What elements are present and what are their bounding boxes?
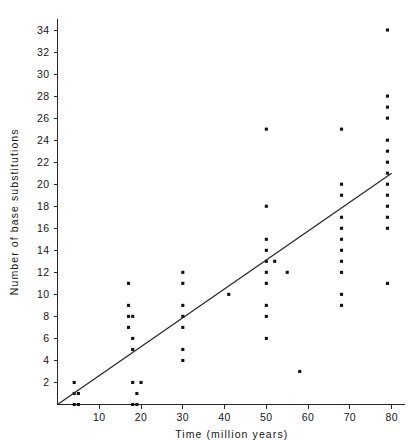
data-point [386, 117, 389, 120]
data-point [340, 194, 343, 197]
data-point [265, 282, 268, 285]
data-point [386, 139, 389, 142]
data-point [131, 403, 134, 406]
y-tick-label: 28 [37, 90, 49, 102]
data-point [73, 403, 76, 406]
data-point [73, 381, 76, 384]
y-tick-label: 2 [43, 376, 49, 388]
data-point [340, 249, 343, 252]
data-point [386, 183, 389, 186]
y-tick-label: 8 [43, 310, 49, 322]
data-point [265, 337, 268, 340]
y-tick-label: 34 [37, 24, 49, 36]
data-point [181, 282, 184, 285]
data-point [227, 293, 230, 296]
data-point [135, 403, 138, 406]
data-point [340, 260, 343, 263]
y-tick-label: 26 [37, 112, 49, 124]
data-point [386, 172, 389, 175]
data-point [298, 370, 301, 373]
data-point [127, 304, 130, 307]
plot-canvas: 246810121416182022242628303234 102030405… [0, 0, 410, 440]
data-point [340, 271, 343, 274]
y-tick-label: 14 [37, 244, 49, 256]
data-point [386, 216, 389, 219]
y-tick-label: 16 [37, 222, 49, 234]
x-tick-label: 30 [177, 411, 189, 423]
y-tick-label: 18 [37, 200, 49, 212]
y-tick-label: 12 [37, 266, 49, 278]
data-point [386, 194, 389, 197]
data-point [77, 392, 80, 395]
data-point [340, 128, 343, 131]
x-tick-label: 40 [218, 411, 230, 423]
data-point [386, 150, 389, 153]
y-tick-label: 30 [37, 68, 49, 80]
data-point [139, 381, 142, 384]
x-tick-label: 20 [135, 411, 147, 423]
data-point [386, 95, 389, 98]
x-tick-label: 50 [260, 411, 272, 423]
data-point [340, 238, 343, 241]
y-tick-label: 32 [37, 46, 49, 58]
data-point [127, 315, 130, 318]
data-point [127, 326, 130, 329]
y-axis-label: Number of base substitutions [8, 128, 20, 295]
data-point [286, 271, 289, 274]
data-point [77, 403, 80, 406]
y-axis-ticks: 246810121416182022242628303234 [37, 24, 57, 388]
y-tick-label: 4 [43, 354, 49, 366]
data-point [181, 304, 184, 307]
x-axis-ticks: 1020304050607080 [93, 405, 398, 423]
data-point [181, 271, 184, 274]
data-point [386, 205, 389, 208]
x-tick-label: 80 [385, 411, 397, 423]
data-point [131, 315, 134, 318]
x-tick-label: 60 [302, 411, 314, 423]
y-tick-label: 24 [37, 134, 49, 146]
data-point [265, 128, 268, 131]
data-point [265, 315, 268, 318]
data-point [340, 304, 343, 307]
data-point [131, 348, 134, 351]
data-point [135, 392, 138, 395]
x-axis-label: Time (million years) [175, 428, 288, 440]
data-point [265, 271, 268, 274]
data-point [386, 161, 389, 164]
data-point [131, 381, 134, 384]
data-point [340, 227, 343, 230]
scatter-plot-figure: 246810121416182022242628303234 102030405… [0, 0, 410, 440]
data-point [127, 282, 130, 285]
data-point [386, 227, 389, 230]
data-point [265, 205, 268, 208]
data-point [181, 359, 184, 362]
x-tick-label: 10 [93, 411, 105, 423]
y-tick-label: 20 [37, 178, 49, 190]
data-point [386, 28, 389, 31]
data-point [273, 260, 276, 263]
data-point [265, 238, 268, 241]
data-point [386, 106, 389, 109]
data-point [386, 282, 389, 285]
data-point [181, 348, 184, 351]
data-points-group [73, 28, 389, 406]
data-point [181, 326, 184, 329]
regression-line [58, 173, 392, 404]
data-point [131, 337, 134, 340]
y-tick-label: 22 [37, 156, 49, 168]
trend-line-group [58, 173, 392, 404]
data-point [340, 293, 343, 296]
y-tick-label: 10 [37, 288, 49, 300]
data-point [340, 216, 343, 219]
y-tick-label: 6 [43, 332, 49, 344]
x-tick-label: 70 [344, 411, 356, 423]
data-point [340, 183, 343, 186]
axes-group [58, 19, 406, 405]
data-point [265, 304, 268, 307]
data-point [265, 249, 268, 252]
